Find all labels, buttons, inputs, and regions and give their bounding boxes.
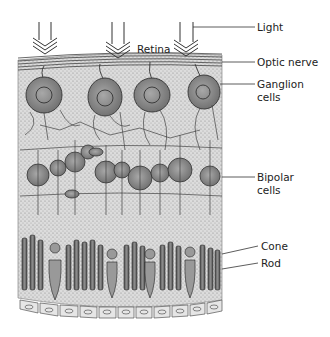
light-arrow-icon [106, 22, 130, 58]
label-light: Light [257, 21, 283, 33]
label-bipolar-line1: Bipolar [257, 171, 294, 183]
label-cone: Cone [261, 240, 288, 252]
light-arrow-icon [33, 22, 57, 54]
label-bipolar-line2: cells [257, 184, 281, 196]
label-rod: Rod [261, 257, 281, 269]
label-ganglion-line2: cells [257, 91, 281, 103]
label-ganglion-line1: Ganglion [257, 78, 304, 90]
label-retina: Retina [137, 43, 170, 55]
label-optic-nerve: Optic nerve [257, 56, 318, 68]
